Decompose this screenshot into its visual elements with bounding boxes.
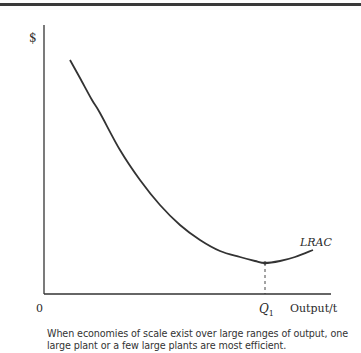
figure-caption: When economies of scale exist over large… xyxy=(47,328,357,352)
minimum-point xyxy=(263,261,267,265)
y-axis-label: $ xyxy=(29,31,37,45)
q1-label-main: Q xyxy=(259,302,269,316)
lrac-chart xyxy=(0,0,361,353)
q1-label-subscript: 1 xyxy=(269,309,274,318)
lrac-curve xyxy=(70,60,313,263)
lrac-label: LRAC xyxy=(300,236,332,249)
x-axis-label: Output/t xyxy=(290,302,337,315)
origin-label: 0 xyxy=(36,302,43,315)
q1-label: Q1 xyxy=(259,302,274,318)
